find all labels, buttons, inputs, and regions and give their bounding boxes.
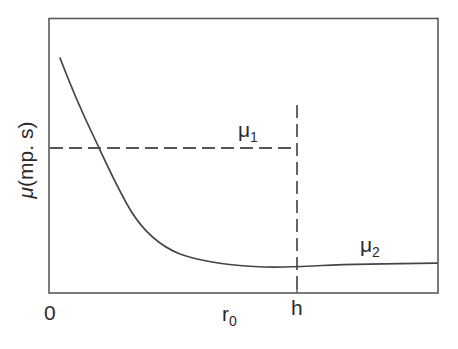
y-axis-mu-symbol: μ — [14, 186, 37, 199]
r0-subscript: 0 — [229, 313, 237, 329]
chart-canvas: μ(mp. s) 0 r0 h μ1 μ2 — [0, 0, 458, 349]
mu1-subscript: 1 — [250, 129, 258, 145]
mu1-annotation: μ1 — [238, 118, 258, 145]
mu1-base: μ — [238, 118, 250, 141]
viscosity-decay-figure: μ(mp. s) 0 r0 h μ1 μ2 — [0, 0, 458, 349]
r0-base: r — [222, 302, 229, 325]
svg-text:μ(mp. s): μ(mp. s) — [14, 122, 37, 200]
mu2-base: μ — [360, 233, 372, 256]
viscosity-decay-curve — [60, 58, 437, 267]
y-axis-units: (mp. s) — [14, 122, 37, 187]
svg-text:μ1: μ1 — [238, 118, 258, 145]
svg-text:r0: r0 — [222, 302, 237, 329]
x-tick-label-r0: r0 — [222, 302, 237, 329]
mu2-annotation: μ2 — [360, 233, 380, 260]
x-tick-label-origin: 0 — [44, 301, 56, 324]
x-tick-label-h: h — [291, 296, 303, 319]
svg-text:μ2: μ2 — [360, 233, 380, 260]
y-axis-title: μ(mp. s) — [14, 122, 37, 200]
mu2-subscript: 2 — [372, 244, 380, 260]
